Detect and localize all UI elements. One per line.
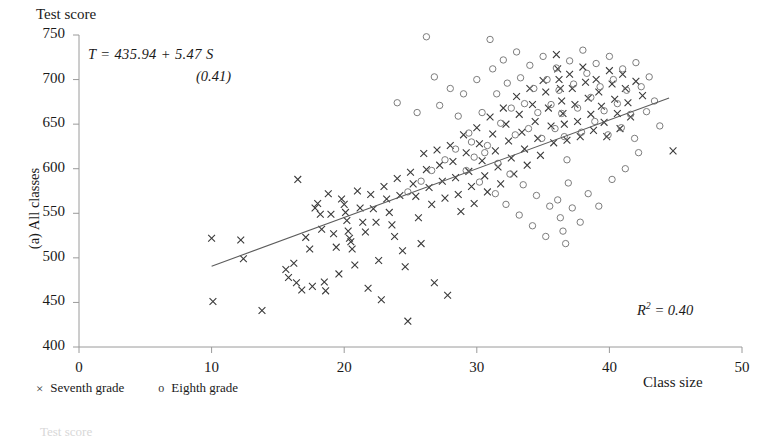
data-point-circle xyxy=(527,62,533,68)
data-point-circle xyxy=(565,180,571,186)
data-point-cross xyxy=(375,257,382,264)
y-tick-label: 450 xyxy=(19,292,65,309)
x-tick-label: 30 xyxy=(457,359,497,376)
legend-item-eighth-grade: o Eighth grade xyxy=(158,380,238,396)
data-point-circle xyxy=(539,135,545,141)
data-point-circle xyxy=(646,74,652,80)
data-point-cross xyxy=(542,89,549,96)
data-point-cross xyxy=(492,147,499,154)
data-point-cross xyxy=(335,271,342,278)
data-point-cross xyxy=(468,183,475,190)
data-point-cross xyxy=(290,260,297,267)
data-point-cross xyxy=(670,147,677,154)
data-point-cross xyxy=(593,76,600,83)
data-point-cross xyxy=(389,221,396,228)
data-point-cross xyxy=(558,98,565,105)
next-panel-title-partial: Test score xyxy=(40,424,92,437)
data-point-cross xyxy=(412,193,419,200)
data-point-cross xyxy=(365,285,372,292)
series-eighth-grade-points xyxy=(394,34,663,247)
data-point-cross xyxy=(328,211,335,218)
y-tick-label: 650 xyxy=(19,114,65,131)
data-point-cross xyxy=(436,162,443,169)
x-tick-label: 50 xyxy=(722,359,762,376)
data-point-circle xyxy=(580,47,586,53)
x-tick-label: 0 xyxy=(59,359,99,376)
data-point-cross xyxy=(321,279,328,286)
x-tick-marks xyxy=(79,347,742,353)
data-point-circle xyxy=(596,203,602,209)
data-point-circle xyxy=(531,85,537,91)
data-point-cross xyxy=(306,246,313,253)
data-point-circle xyxy=(512,132,518,138)
data-point-cross xyxy=(556,76,563,83)
data-point-cross xyxy=(553,51,560,58)
data-point-cross xyxy=(513,93,520,100)
data-point-circle xyxy=(431,74,437,80)
legend-label-eighth-grade: Eighth grade xyxy=(171,380,238,396)
data-point-circle xyxy=(468,139,474,145)
y-tick-label: 550 xyxy=(19,203,65,220)
data-point-circle xyxy=(476,179,482,185)
data-point-circle xyxy=(517,75,523,81)
data-point-cross xyxy=(293,279,300,286)
data-point-circle xyxy=(584,70,590,76)
data-point-circle xyxy=(503,201,509,207)
data-point-circle xyxy=(484,142,490,148)
data-point-cross xyxy=(471,200,478,207)
data-point-cross xyxy=(532,118,539,125)
data-point-circle xyxy=(610,76,616,82)
data-point-circle xyxy=(544,76,550,82)
data-point-cross xyxy=(294,176,301,183)
data-point-circle xyxy=(487,36,493,42)
data-point-cross xyxy=(325,190,332,197)
data-point-circle xyxy=(414,109,420,115)
data-point-cross xyxy=(606,67,613,74)
data-point-cross xyxy=(381,183,388,190)
y-tick-marks xyxy=(73,35,79,347)
y-tick-label: 750 xyxy=(19,25,65,42)
data-point-cross xyxy=(431,279,438,286)
cross-marker-icon: × xyxy=(36,382,43,395)
y-tick-label: 600 xyxy=(19,159,65,176)
data-point-cross xyxy=(378,296,385,303)
data-point-cross xyxy=(285,274,292,281)
data-point-circle xyxy=(638,84,644,90)
data-point-circle xyxy=(606,53,612,59)
data-point-cross xyxy=(622,85,629,92)
data-point-circle xyxy=(577,219,583,225)
data-point-cross xyxy=(434,147,441,154)
data-point-cross xyxy=(442,195,449,202)
data-point-circle xyxy=(548,101,554,107)
data-point-cross xyxy=(342,209,349,216)
data-point-circle xyxy=(619,66,625,72)
data-point-cross xyxy=(210,298,217,305)
data-point-cross xyxy=(309,283,316,290)
data-point-circle xyxy=(442,157,448,163)
data-point-cross xyxy=(322,287,329,294)
data-point-cross xyxy=(574,118,581,125)
data-point-cross xyxy=(487,114,494,121)
data-point-circle xyxy=(569,205,575,211)
data-point-circle xyxy=(455,113,461,119)
data-point-cross xyxy=(561,121,568,128)
data-point-cross xyxy=(407,169,414,176)
data-point-circle xyxy=(635,149,641,155)
data-point-cross xyxy=(373,219,380,226)
data-point-cross xyxy=(444,292,451,299)
data-point-cross xyxy=(497,180,504,187)
data-point-circle xyxy=(529,223,535,229)
data-point-cross xyxy=(399,247,406,254)
series-seventh-grade-points xyxy=(208,51,676,324)
data-point-circle xyxy=(460,91,466,97)
data-point-circle xyxy=(657,123,663,129)
data-point-circle xyxy=(436,102,442,108)
data-point-cross xyxy=(500,105,507,112)
regression-fit-line xyxy=(212,98,669,266)
data-point-cross xyxy=(404,318,411,325)
data-point-cross xyxy=(410,180,417,187)
data-point-cross xyxy=(386,209,393,216)
data-point-circle xyxy=(490,66,496,72)
circle-marker-icon: o xyxy=(158,382,164,394)
data-point-circle xyxy=(508,105,514,111)
